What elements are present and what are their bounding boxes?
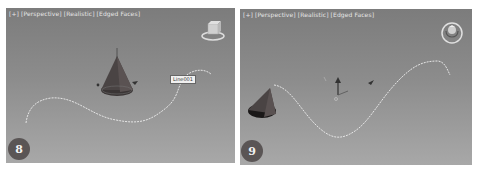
step-badge: 8 xyxy=(8,138,30,160)
object-name-tooltip: Line001 xyxy=(170,75,196,84)
cone-object[interactable] xyxy=(97,48,138,96)
transform-gizmo[interactable] xyxy=(324,77,374,101)
step-badge: 9 xyxy=(241,140,263,162)
viewport-panel-8[interactable]: [+] [Perspective] [Realistic] [Edged Fac… xyxy=(6,8,235,163)
spline-path[interactable] xyxy=(274,61,450,137)
viewcube-icon[interactable] xyxy=(202,21,224,40)
viewcube-icon[interactable] xyxy=(442,23,462,43)
scene-canvas[interactable] xyxy=(240,9,472,165)
cone-object[interactable] xyxy=(248,88,276,118)
viewport-panel-9[interactable]: [+] [Perspective] [Realistic] [Edged Fac… xyxy=(240,9,472,165)
scene-canvas[interactable] xyxy=(6,8,235,163)
